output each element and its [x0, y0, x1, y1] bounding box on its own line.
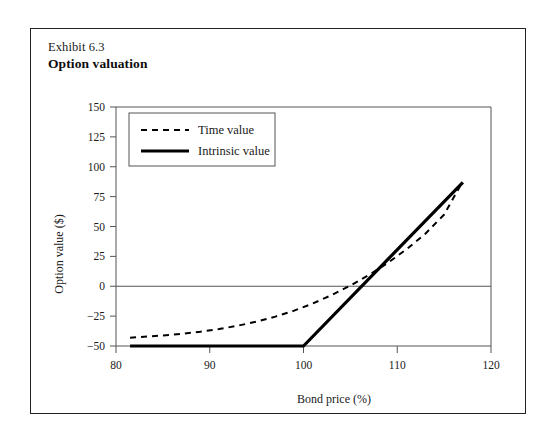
x-tick-label: 100 — [295, 359, 313, 371]
chart-legend: Time value Intrinsic value — [129, 113, 275, 166]
series-intrinsic-value — [130, 182, 463, 346]
x-axis-title: Bond price (%) — [297, 392, 371, 406]
y-tick-label: 50 — [94, 221, 106, 233]
y-tick-label: 0 — [99, 280, 105, 292]
x-tick-label: 110 — [389, 359, 406, 371]
option-valuation-chart: −50−250255075100125150 8090100110120 Bon… — [31, 29, 527, 415]
x-tick-label: 90 — [204, 359, 216, 371]
y-tick-label: 25 — [94, 250, 106, 262]
x-tick-label: 80 — [110, 359, 122, 371]
figure-frame: Exhibit 6.3 Option valuation −50−2502550… — [30, 28, 526, 414]
y-tick-label: 125 — [88, 131, 106, 143]
legend-box — [129, 113, 275, 166]
series-group — [130, 181, 463, 346]
legend-label-intrinsic-value: Intrinsic value — [198, 144, 270, 158]
legend-label-time-value: Time value — [198, 123, 255, 137]
y-tick-label: 150 — [88, 101, 106, 113]
x-axis: 8090100110120 — [110, 346, 500, 371]
x-tick-label: 120 — [482, 359, 500, 371]
y-axis: −50−250255075100125150 — [87, 101, 116, 352]
y-tick-label: −25 — [87, 310, 105, 322]
y-tick-label: 75 — [94, 191, 106, 203]
y-axis-title: Option value ($) — [52, 214, 66, 293]
y-tick-label: −50 — [87, 340, 105, 352]
y-tick-label: 100 — [88, 161, 106, 173]
series-time-value — [130, 181, 463, 338]
